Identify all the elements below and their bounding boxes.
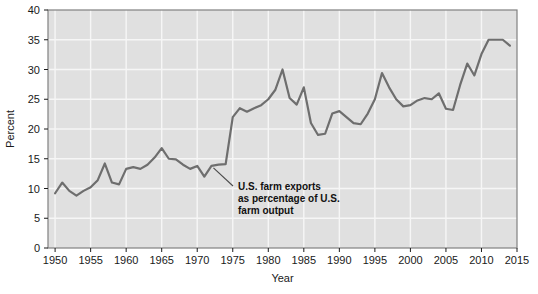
x-tick-label: 1960 <box>114 254 138 266</box>
x-tick-label: 1965 <box>149 254 173 266</box>
y-tick-label: 20 <box>28 123 40 135</box>
annotation-text-line: farm output <box>238 205 294 216</box>
x-tick-label: 2015 <box>505 254 529 266</box>
x-tick-label: 1980 <box>256 254 280 266</box>
line-chart: 0510152025303540195019551960196519701975… <box>0 0 538 294</box>
x-tick-label: 1995 <box>363 254 387 266</box>
x-tick-label: 2010 <box>469 254 493 266</box>
y-tick-label: 25 <box>28 93 40 105</box>
x-tick-label: 1950 <box>43 254 67 266</box>
chart-figure: 0510152025303540195019551960196519701975… <box>0 0 538 294</box>
y-tick-label: 40 <box>28 4 40 16</box>
x-tick-label: 1970 <box>185 254 209 266</box>
y-axis-title: Percent <box>4 110 16 148</box>
y-tick-label: 0 <box>34 242 40 254</box>
x-tick-label: 1975 <box>221 254 245 266</box>
annotation-text-line: U.S. farm exports <box>238 181 321 192</box>
annotation-text-line: as percentage of U.S. <box>238 193 340 204</box>
x-tick-label: 2005 <box>434 254 458 266</box>
x-tick-label: 1985 <box>292 254 316 266</box>
x-axis-title: Year <box>271 272 294 284</box>
x-tick-label: 1955 <box>78 254 102 266</box>
x-axis: 1950195519601965197019751980198519901995… <box>43 248 529 266</box>
y-tick-label: 35 <box>28 34 40 46</box>
y-tick-label: 5 <box>34 212 40 224</box>
y-tick-label: 15 <box>28 153 40 165</box>
x-tick-label: 2000 <box>398 254 422 266</box>
x-tick-label: 1990 <box>327 254 351 266</box>
y-axis: 0510152025303540 <box>28 4 48 254</box>
y-tick-label: 10 <box>28 183 40 195</box>
y-tick-label: 30 <box>28 64 40 76</box>
